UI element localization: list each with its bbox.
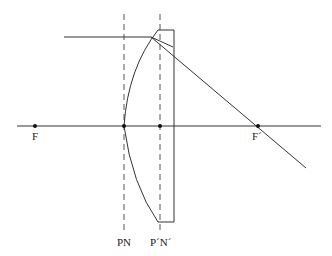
back-focus-label: F´ [252, 130, 262, 142]
lens-diagram: F F´ PN P´N´ [0, 0, 332, 256]
back-principal-point [158, 124, 162, 128]
front-principal-point [122, 124, 126, 128]
back-planes-label: P´N´ [150, 236, 172, 248]
back-focal-point [256, 124, 260, 128]
front-focus-label: F [32, 130, 38, 142]
ray-inside-lens [151, 37, 173, 47]
front-focal-point [33, 124, 37, 128]
front-planes-label: PN [117, 236, 131, 248]
